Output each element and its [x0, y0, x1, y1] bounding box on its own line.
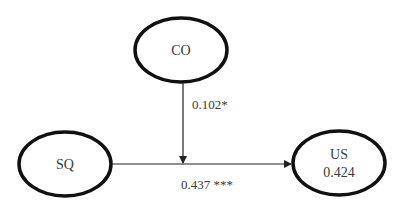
node-co-label: CO: [171, 43, 190, 58]
node-us-ellipse: [293, 131, 385, 195]
node-us: US 0.424: [293, 131, 385, 195]
path-diagram: CO SQ US 0.424 0.437 *** 0.102*: [0, 0, 401, 208]
edge-sq-to-us-label: 0.437 ***: [181, 177, 233, 192]
node-co: CO: [135, 18, 227, 82]
node-sq-label: SQ: [56, 157, 74, 172]
node-us-label: US: [330, 147, 348, 162]
edge-sq-to-us: 0.437 ***: [112, 164, 291, 192]
edge-co-moderation-label: 0.102*: [192, 97, 228, 112]
edge-co-moderation: 0.102*: [183, 83, 228, 163]
node-us-r2-value: 0.424: [323, 165, 355, 180]
node-sq: SQ: [19, 132, 111, 196]
